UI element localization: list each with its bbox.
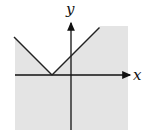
y-axis-label: y	[65, 0, 75, 18]
inequality-graph: y x	[0, 0, 144, 137]
x-axis-label: x	[133, 66, 142, 84]
